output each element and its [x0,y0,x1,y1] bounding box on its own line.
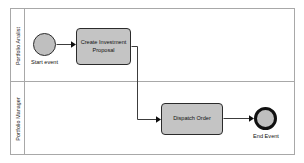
lane-label-manager-text: Portfolio Manager [15,97,21,141]
task-create-investment-proposal[interactable]: Create Investment Proposal [76,28,131,65]
end-event-shape[interactable] [254,107,277,130]
task-dispatch-order[interactable]: Dispatch Order [161,103,223,135]
end-event-label: End Event [240,133,292,139]
start-event-label: Start event [18,59,71,65]
lane-portfolio-manager [11,82,294,156]
start-event-shape[interactable] [33,33,56,56]
lane-label-portfolio-analist: Portfolio Analist [11,9,25,82]
bpmn-diagram-canvas: Portfolio Analist Portfolio Manager Star… [0,0,304,163]
lane-label-portfolio-manager: Portfolio Manager [11,82,25,156]
